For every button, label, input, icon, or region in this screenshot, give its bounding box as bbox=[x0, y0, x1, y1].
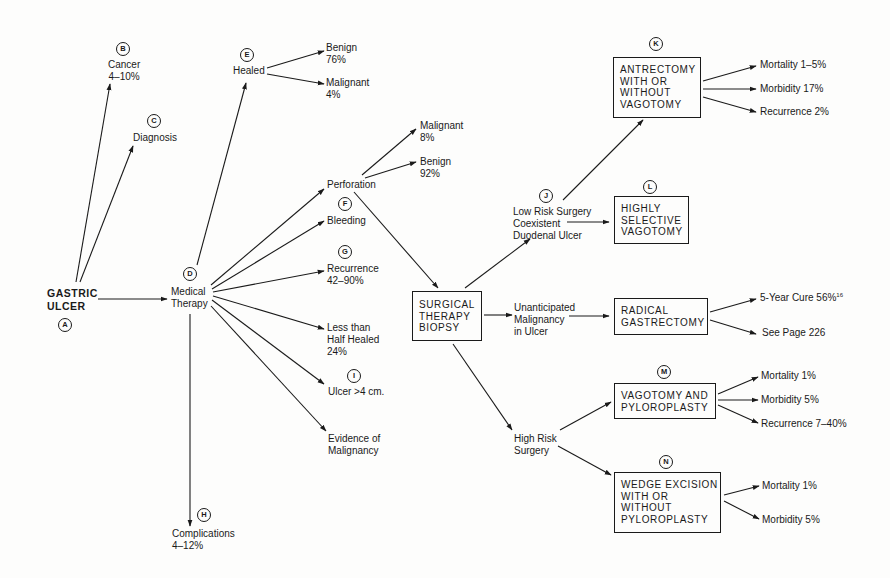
node-marker-i: I bbox=[347, 369, 361, 383]
node-marker-k: K bbox=[649, 37, 663, 51]
node-marker-a: A bbox=[58, 318, 72, 332]
node-vp-recurrence: Recurrence 7–40% bbox=[761, 418, 847, 430]
edge-d-to-healed bbox=[197, 83, 246, 265]
node-marker-h: H bbox=[197, 508, 211, 522]
node-marker-d: D bbox=[183, 267, 197, 281]
node-wedge-mortality: Mortality 1% bbox=[762, 480, 817, 492]
edge-perforation-to-malignant bbox=[362, 129, 416, 175]
node-vp-mortality: Mortality 1% bbox=[761, 370, 816, 382]
edge-m-to-mortality bbox=[718, 377, 758, 394]
node-marker-j: J bbox=[539, 189, 553, 203]
node-diagnosis: Diagnosis bbox=[133, 132, 177, 144]
edge-d-to-recurrence bbox=[213, 271, 324, 292]
flowchart-edges bbox=[0, 0, 890, 578]
node-wedge-excision: WEDGE EXCISION WITH OR WITHOUT PYLOROPLA… bbox=[614, 472, 721, 533]
node-marker-c: C bbox=[147, 114, 161, 128]
node-healed: Healed bbox=[233, 65, 265, 77]
edge-k-to-mortality bbox=[703, 66, 756, 81]
node-antrectomy-mortality: Mortality 1–5% bbox=[760, 59, 826, 71]
edge-d-to-perforation bbox=[211, 189, 324, 285]
node-wedge-morbidity: Morbidity 5% bbox=[762, 514, 820, 526]
five-year-cure-text: 5-Year Cure 56% bbox=[760, 292, 836, 303]
node-recurrence: Recurrence 42–90% bbox=[327, 263, 379, 287]
node-highly-selective-vagotomy: HIGHLY SELECTIVE VAGOTOMY bbox=[614, 196, 689, 244]
node-less-than-half-healed: Less than Half Healed 24% bbox=[327, 322, 379, 358]
node-vagotomy-and-pyloroplasty: VAGOTOMY AND PYLOROPLASTY bbox=[614, 383, 716, 419]
edge-high-risk-to-vp bbox=[560, 402, 611, 430]
node-marker-l: L bbox=[643, 180, 657, 194]
node-marker-f: F bbox=[338, 197, 352, 211]
edge-a-to-cancer bbox=[76, 84, 110, 282]
node-antrectomy-morbidity: Morbidity 17% bbox=[760, 83, 823, 95]
edge-d-to-bleeding bbox=[212, 221, 324, 289]
node-bleeding: Bleeding bbox=[327, 215, 366, 227]
edge-radical-to-see-page bbox=[710, 320, 756, 334]
node-marker-m: M bbox=[657, 365, 671, 379]
node-medical-therapy: Medical Therapy bbox=[171, 286, 208, 310]
node-healed-malignant: Malignant 4% bbox=[326, 77, 369, 101]
edge-radical-to-cure bbox=[710, 299, 756, 312]
node-perforation: Perforation bbox=[327, 179, 376, 191]
edge-d-to-half-healed bbox=[213, 296, 324, 329]
node-high-risk-surgery: High Risk Surgery bbox=[514, 433, 557, 457]
node-marker-n: N bbox=[659, 455, 673, 469]
node-marker-e: E bbox=[240, 48, 254, 62]
edge-n-to-morbidity bbox=[724, 501, 759, 519]
edge-m-to-recurrence bbox=[718, 405, 758, 423]
node-marker-b: B bbox=[116, 42, 130, 56]
citation-superscript: 16 bbox=[836, 292, 843, 298]
node-perforation-benign: Benign 92% bbox=[420, 156, 451, 180]
node-ulcer-over-4cm: Ulcer >4 cm. bbox=[328, 386, 384, 398]
edge-surgical-to-low-risk bbox=[465, 239, 530, 288]
node-cancer: Cancer 4–10% bbox=[108, 59, 140, 83]
node-marker-g: G bbox=[338, 245, 352, 259]
edge-healed-to-malignant bbox=[267, 74, 324, 84]
node-antrectomy-recurrence: Recurrence 2% bbox=[760, 106, 829, 118]
node-low-risk-surgery: Low Risk Surgery Coexistent Duodenal Ulc… bbox=[513, 206, 591, 242]
node-antrectomy: ANTRECTOMY WITH OR WITHOUT VAGOTOMY bbox=[613, 57, 701, 118]
edge-n-to-mortality bbox=[724, 486, 759, 495]
gastric-ulcer-flowchart: GASTRIC ULCER A B Cancer 4–10% C Diagnos… bbox=[0, 0, 890, 578]
node-perforation-malignant: Malignant 8% bbox=[420, 120, 463, 144]
node-five-year-cure: 5-Year Cure 56%16 bbox=[760, 292, 843, 304]
edge-healed-to-benign bbox=[267, 51, 324, 68]
edge-surgical-to-high-risk bbox=[453, 344, 512, 430]
node-gastric-ulcer: GASTRIC ULCER bbox=[47, 287, 98, 312]
edge-k-to-recurrence bbox=[703, 97, 756, 112]
node-unanticipated-malignancy: Unanticipated Malignancy in Ulcer bbox=[514, 302, 575, 338]
edge-high-risk-to-wedge bbox=[558, 446, 611, 475]
edge-perforation-to-benign bbox=[365, 162, 416, 178]
node-see-page-226: See Page 226 bbox=[762, 327, 825, 339]
node-surgical-therapy-biopsy: SURGICAL THERAPY BIOPSY bbox=[412, 291, 482, 341]
node-healed-benign: Benign 76% bbox=[326, 42, 357, 66]
node-radical-gastrectomy: RADICAL GASTRECTOMY bbox=[614, 298, 708, 335]
node-complications: Complications 4–12% bbox=[172, 528, 235, 552]
edge-low-risk-to-antrectomy bbox=[563, 120, 643, 200]
node-evidence-of-malignancy: Evidence of Malignancy bbox=[328, 433, 380, 457]
node-vp-morbidity: Morbidity 5% bbox=[761, 394, 819, 406]
